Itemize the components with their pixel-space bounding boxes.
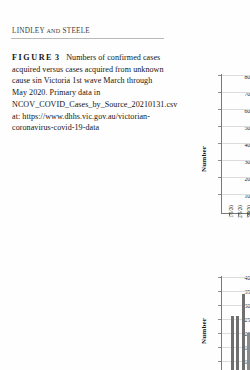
chart-bottom-bar-3 bbox=[242, 294, 245, 370]
running-header-author-two: STEELE bbox=[63, 27, 90, 35]
running-header-conjunction: AND bbox=[46, 28, 60, 34]
chart-top-gridline-10 bbox=[222, 194, 250, 195]
chart-bottom-tickmark-40 bbox=[218, 277, 221, 278]
chart-bottom-bar-1 bbox=[231, 316, 234, 370]
chart-top-tickmark-30 bbox=[218, 160, 221, 161]
chart-bottom-tickmark-10 bbox=[218, 361, 221, 362]
chart-top-tickmark-10 bbox=[218, 194, 221, 195]
chart-top-tickmark-50 bbox=[218, 126, 221, 127]
chart-bottom-gridline-40 bbox=[222, 277, 250, 278]
chart-bottom-gridline-30 bbox=[222, 305, 250, 306]
chart-top-xtick-label-2: 2/5/20 bbox=[237, 205, 243, 218]
chart-bottom-bar-2 bbox=[236, 316, 239, 370]
chart-bottom-bar-4 bbox=[247, 333, 250, 370]
chart-top-xtick-label-3: 3/5/20 bbox=[246, 205, 250, 218]
chart-top: Number 80 70 60 50 40 30 20 10 0 bbox=[190, 60, 250, 235]
chart-top-gridline-40 bbox=[222, 143, 250, 144]
chart-bottom-gridline-35 bbox=[222, 291, 250, 292]
chart-bottom: Number 40 35 30 25 20 15 10 bbox=[190, 272, 250, 370]
chart-top-gridline-20 bbox=[222, 177, 250, 178]
chart-top-tickmark-40 bbox=[218, 143, 221, 144]
chart-top-tickmark-60 bbox=[218, 109, 221, 110]
chart-bottom-tickmark-30 bbox=[218, 305, 221, 306]
chart-bottom-tickmark-35 bbox=[218, 291, 221, 292]
chart-top-plot-area: 1/5/20 2/5/20 3/5/20 bbox=[220, 60, 250, 220]
chart-bottom-y-axis-title: Number bbox=[200, 318, 208, 344]
chart-bottom-tickmark-25 bbox=[218, 319, 221, 320]
running-header: LINDLEY AND STEELE bbox=[12, 27, 90, 35]
figure-caption-number: 3 bbox=[55, 53, 59, 62]
chart-top-gridline-60 bbox=[222, 109, 250, 110]
chart-top-gridline-70 bbox=[222, 92, 250, 93]
chart-bottom-tickmark-20 bbox=[218, 333, 221, 334]
chart-top-tickmark-20 bbox=[218, 177, 221, 178]
running-header-author-one: LINDLEY bbox=[12, 27, 45, 35]
chart-top-tickmark-80 bbox=[218, 75, 221, 76]
chart-top-xtick-label-1: 1/5/20 bbox=[228, 205, 234, 218]
page-canvas: LINDLEY AND STEELE FIGURE 3Numbers of co… bbox=[0, 0, 250, 370]
chart-bottom-tickmark-15 bbox=[218, 347, 221, 348]
figure-caption-text: Numbers of confirmed cases acquired vers… bbox=[12, 53, 177, 132]
header-divider-rule bbox=[11, 38, 164, 39]
chart-bottom-plot-area bbox=[220, 272, 250, 370]
chart-top-gridline-80 bbox=[222, 75, 250, 76]
figure-caption: FIGURE 3Numbers of confirmed cases acqui… bbox=[12, 52, 164, 134]
chart-top-y-axis-title: Number bbox=[200, 146, 208, 172]
chart-top-gridline-50 bbox=[222, 126, 250, 127]
chart-top-y-axis-line bbox=[221, 74, 222, 214]
chart-top-tickmark-70 bbox=[218, 92, 221, 93]
figure-caption-label: FIGURE bbox=[12, 53, 53, 62]
chart-top-gridline-30 bbox=[222, 160, 250, 161]
